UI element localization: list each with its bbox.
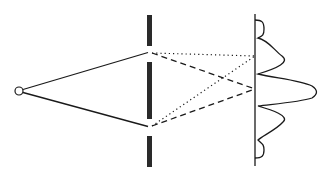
double-slit-diagram [0,0,326,180]
solid-rays [23,53,148,127]
barrier [147,15,152,167]
light-source [15,87,23,95]
dashed-paths [152,53,255,126]
intensity-pattern [255,20,317,158]
dotted-paths [152,53,255,126]
